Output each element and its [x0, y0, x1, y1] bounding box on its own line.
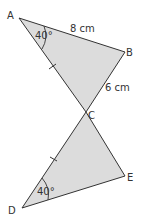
vertex-label-a: A [7, 10, 14, 21]
vertex-label-b: B [126, 47, 133, 58]
vertex-label-e: E [127, 172, 133, 183]
angle-label-d: 40° [37, 186, 55, 197]
vertex-label-d: D [8, 205, 16, 216]
vertex-label-c: C [88, 110, 95, 121]
side-label-bc: 6 cm [105, 82, 130, 93]
side-label-ab: 8 cm [70, 23, 95, 34]
angle-label-a: 40° [35, 30, 53, 41]
geometry-diagram: A B C D E 8 cm 6 cm 40° 40° [0, 0, 142, 221]
